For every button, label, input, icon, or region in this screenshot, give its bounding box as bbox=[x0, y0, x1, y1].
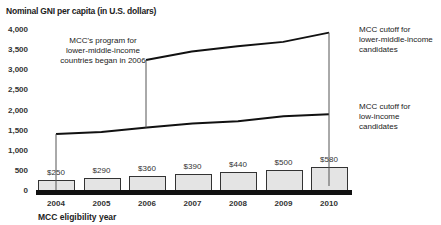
cutoff-line bbox=[146, 33, 329, 60]
x-axis-label: MCC eligibility year bbox=[38, 212, 116, 222]
annotation-lmi-cutoff: MCC cutoff for lower-middle-income candi… bbox=[359, 25, 433, 55]
cutoff-line bbox=[56, 114, 329, 134]
annotation-program-start: MCC's program for lower-middle-income co… bbox=[58, 36, 148, 66]
annotation-li-cutoff: MCC cutoff for low-income candidates bbox=[359, 102, 410, 132]
